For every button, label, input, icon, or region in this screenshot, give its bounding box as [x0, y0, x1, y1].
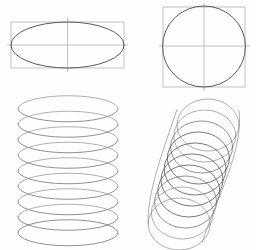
figures-svg: [0, 0, 256, 250]
drawing-canvas: [0, 0, 256, 250]
